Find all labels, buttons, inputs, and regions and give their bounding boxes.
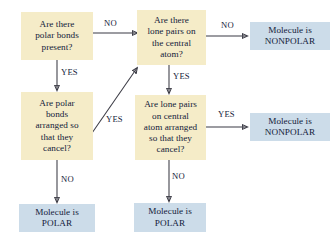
node-polar-bottom-middle-label: Molecule is POLAR [136, 206, 204, 228]
edge-label-no-polar-bonds-to-lone-pairs: NO [104, 19, 117, 28]
node-lone-pairs-central-atom-label: Are there lone pairs on the central atom… [139, 15, 204, 60]
edge-label-no-lone-pairs-to-nonpolar-top: NO [221, 21, 234, 30]
node-nonpolar-top: Molecule is NONPOLAR [250, 22, 330, 50]
edge-label-yes-lone-cancel-to-nonpolar: YES [218, 110, 235, 119]
node-nonpolar-middle: Molecule is NONPOLAR [250, 113, 330, 141]
edge-label-no-lone-cancel-to-polar: NO [172, 172, 185, 181]
node-lone-pairs-cancel: Are lone pairs on central atom arranged … [135, 95, 206, 160]
edge-label-yes-polar-bonds-to-cancel: YES [61, 68, 78, 77]
polarity-flowchart: lone pairs central atom --> polar bonds … [0, 0, 335, 245]
edge-label-yes-bonds-cancel-to-lone-pairs: YES [106, 115, 123, 124]
node-polar-bottom-left: Molecule is POLAR [19, 204, 95, 232]
node-polar-bonds-cancel-label: Are polar bonds arranged so that they ca… [23, 98, 91, 154]
node-lone-pairs-central-atom: Are there lone pairs on the central atom… [137, 10, 206, 65]
node-nonpolar-middle-label: Molecule is NONPOLAR [252, 116, 328, 138]
edge-label-no-bonds-cancel-to-polar: NO [61, 175, 74, 184]
node-lone-pairs-cancel-label: Are lone pairs on central atom arranged … [137, 99, 204, 155]
node-polar-bonds-present-label: Are there polar bonds present? [23, 19, 91, 53]
edge-label-yes-lone-pairs-to-cancel: YES [173, 72, 190, 81]
node-polar-bonds-cancel: Are polar bonds arranged so that they ca… [21, 92, 93, 160]
node-polar-bottom-middle: Molecule is POLAR [134, 203, 206, 232]
node-nonpolar-top-label: Molecule is NONPOLAR [252, 25, 328, 47]
node-polar-bottom-left-label: Molecule is POLAR [21, 207, 93, 229]
node-polar-bonds-present: Are there polar bonds present? [21, 12, 93, 60]
